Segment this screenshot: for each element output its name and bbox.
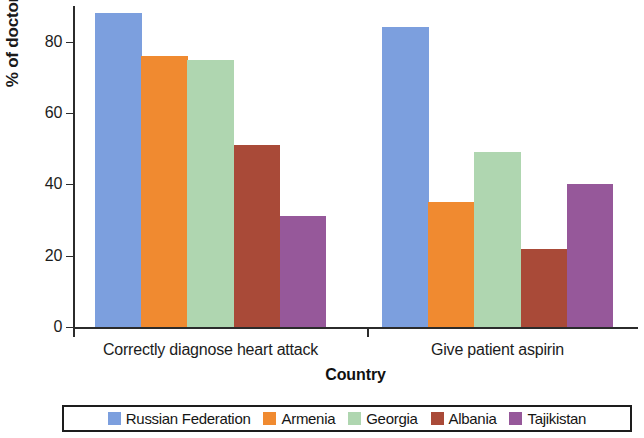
y-axis-tick-mark [66, 327, 73, 328]
bar-chart: % of doctors 020406080 Correctly diagnos… [0, 0, 644, 438]
x-axis-tick-mark [73, 328, 75, 337]
y-axis-title: % of doctors [0, 0, 26, 122]
x-axis-category-label: Correctly diagnose heart attack [51, 340, 371, 360]
y-axis-tick-label: 80 [18, 34, 62, 50]
y-axis-tick-label: 40 [18, 176, 62, 192]
legend: Russian FederationArmeniaGeorgiaAlbaniaT… [62, 405, 632, 432]
legend-color-swatch [263, 412, 276, 425]
legend-label: Georgia [366, 411, 417, 426]
plot-area [75, 6, 638, 327]
legend-item[interactable]: Tajikistan [509, 411, 586, 426]
y-axis-tick-mark [66, 113, 73, 114]
x-axis-line [73, 327, 638, 329]
legend-item[interactable]: Russian Federation [108, 411, 251, 426]
x-axis-title: Country [73, 366, 638, 384]
bar [428, 202, 475, 327]
y-axis-tick-mark [66, 184, 73, 185]
legend-item[interactable]: Georgia [348, 411, 417, 426]
legend-label: Albania [449, 411, 497, 426]
y-axis-tick-mark [66, 256, 73, 257]
legend-label: Tajikistan [527, 411, 586, 426]
legend-color-swatch [108, 412, 121, 425]
bar [95, 13, 142, 327]
bar [382, 27, 429, 327]
legend-item[interactable]: Armenia [263, 411, 335, 426]
x-axis-category-label: Give patient aspirin [338, 340, 644, 360]
y-axis-tick-label: 60 [18, 105, 62, 121]
bar [141, 56, 188, 327]
legend-item[interactable]: Albania [431, 411, 497, 426]
legend-label: Armenia [281, 411, 335, 426]
y-axis-tick-label: 0 [18, 319, 62, 335]
bar [234, 145, 281, 327]
y-axis-tick-label: 20 [18, 248, 62, 264]
y-axis-tick-mark [66, 42, 73, 43]
bar [567, 184, 614, 327]
bar [280, 216, 327, 327]
legend-color-swatch [509, 412, 522, 425]
bar [521, 249, 568, 327]
bar [187, 60, 234, 328]
bar [474, 152, 521, 327]
legend-color-swatch [431, 412, 444, 425]
x-axis-tick-mark [367, 328, 369, 337]
legend-label: Russian Federation [126, 411, 251, 426]
legend-color-swatch [348, 412, 361, 425]
